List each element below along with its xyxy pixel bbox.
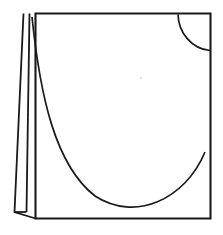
figure-root: Open book line drawing Black outline dra… — [0, 0, 223, 235]
paper-speck — [140, 77, 142, 79]
line-drawing: Open book line drawing Black outline dra… — [0, 0, 223, 235]
